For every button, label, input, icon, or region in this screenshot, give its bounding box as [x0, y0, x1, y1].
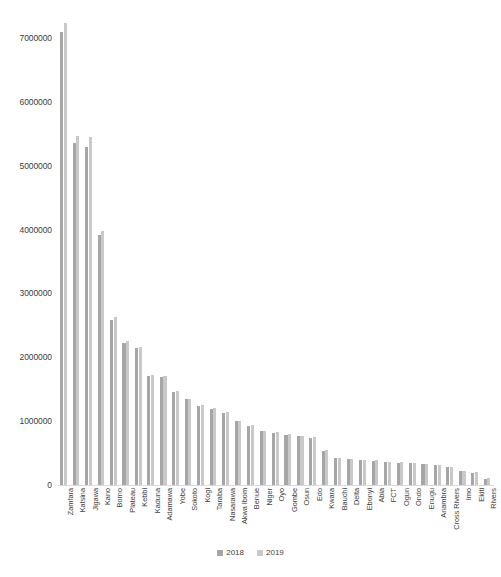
x-tick-label: Adamawa — [166, 488, 174, 521]
bar-group — [135, 0, 147, 485]
bar-2019 — [375, 460, 378, 485]
x-tick-label: Katsina — [79, 488, 87, 512]
x-tick-label: Ebonyi — [366, 488, 374, 510]
bar-group — [210, 0, 222, 485]
x-tick-label: Plateau — [129, 488, 137, 513]
x-tick-label: Ekiti — [478, 488, 486, 502]
y-tick-label: 2000000 — [20, 353, 52, 362]
y-tick-label: 3000000 — [20, 289, 52, 298]
bar-2019 — [338, 458, 341, 485]
bar-2019 — [350, 459, 353, 485]
x-tick-label: Kogi — [204, 488, 212, 503]
bar-2019 — [163, 376, 166, 485]
bar-2019 — [126, 341, 129, 485]
bar-chart: 0100000020000003000000400000050000006000… — [0, 0, 501, 577]
bar-2019 — [450, 467, 453, 485]
x-tick-label: Ogun — [403, 488, 411, 506]
bar-2019 — [462, 471, 465, 485]
y-tick-label: 6000000 — [20, 97, 52, 106]
bar-group — [73, 0, 85, 485]
y-tick-label: 1000000 — [20, 417, 52, 426]
x-tick-label: Taraba — [216, 488, 224, 510]
x-tick-label: Borno — [116, 488, 124, 507]
bar-2019 — [238, 421, 241, 485]
bar-2019 — [201, 405, 204, 485]
bar-group — [397, 0, 409, 485]
x-tick-label: Gombe — [291, 488, 299, 512]
y-tick-label: 7000000 — [20, 34, 52, 43]
bar-2019 — [151, 375, 154, 485]
bar-group — [372, 0, 384, 485]
bar-group — [309, 0, 321, 485]
x-tick-label: Kebbi — [141, 488, 149, 507]
bar-2019 — [425, 464, 428, 485]
bar-2019 — [325, 450, 328, 485]
x-tick-label: Anambra — [440, 488, 448, 518]
bar-2019 — [300, 436, 303, 485]
bar-2019 — [64, 23, 67, 485]
bar-2019 — [114, 317, 117, 485]
x-tick-label: Oyo — [278, 488, 286, 501]
bar-group — [471, 0, 483, 485]
bar-group — [260, 0, 272, 485]
x-tick-label: Rivers — [490, 488, 498, 509]
bar-group — [235, 0, 247, 485]
y-axis: 0100000020000003000000400000050000006000… — [0, 0, 58, 577]
bar-2019 — [475, 472, 478, 485]
y-tick-label: 5000000 — [20, 161, 52, 170]
bar-group — [484, 0, 496, 485]
bar-group — [359, 0, 371, 485]
x-tick-label: Zamfara — [67, 488, 75, 515]
bar-2019 — [89, 137, 92, 485]
bar-group — [172, 0, 184, 485]
x-tick-label: Kano — [104, 488, 112, 505]
bar-2019 — [176, 391, 179, 485]
bar-group — [459, 0, 471, 485]
x-tick-label: Benue — [253, 488, 261, 509]
legend-item[interactable]: 2018 — [217, 549, 244, 557]
bar-2019 — [487, 478, 490, 485]
bar-2019 — [288, 434, 291, 485]
bar-2019 — [413, 463, 416, 485]
bar-2019 — [313, 437, 316, 485]
x-tick-label: Delta — [353, 488, 361, 505]
x-tick-label: Cross Rivers — [453, 488, 461, 530]
bar-2019 — [251, 425, 254, 485]
x-tick-label: Imo — [465, 488, 473, 500]
x-tick-label: Yobe — [179, 488, 187, 504]
bar-group — [272, 0, 284, 485]
bar-group — [334, 0, 346, 485]
bar-group — [384, 0, 396, 485]
x-tick-label: Bauchi — [341, 488, 349, 510]
y-tick-label: 0 — [47, 481, 52, 490]
bar-group — [197, 0, 209, 485]
bar-group — [122, 0, 134, 485]
x-tick-label: Akwa Ibom — [241, 488, 249, 524]
bar-2019 — [76, 136, 79, 485]
plot-bars — [58, 0, 494, 485]
bar-group — [98, 0, 110, 485]
bar-group — [85, 0, 97, 485]
legend-item[interactable]: 2019 — [257, 549, 284, 557]
bar-group — [60, 0, 72, 485]
bar-group — [322, 0, 334, 485]
bar-2019 — [276, 432, 279, 485]
bar-group — [446, 0, 458, 485]
x-tick-label: Jigawa — [92, 488, 100, 511]
x-tick-label: Kaduna — [154, 488, 162, 513]
x-tick-label: Ondo — [415, 488, 423, 506]
bar-2019 — [101, 231, 104, 485]
x-tick-label: Osun — [303, 488, 311, 505]
bar-2019 — [263, 431, 266, 485]
bar-group — [222, 0, 234, 485]
x-tick-label: Kwara — [328, 488, 336, 509]
bar-group — [421, 0, 433, 485]
bar-group — [297, 0, 309, 485]
chart-legend: 20182019 — [0, 549, 501, 557]
legend-swatch-icon — [217, 550, 223, 556]
x-tick-label: Niger — [266, 488, 274, 505]
x-tick-label: FCT — [390, 488, 398, 502]
bar-group — [434, 0, 446, 485]
bar-group — [409, 0, 421, 485]
legend-swatch-icon — [257, 550, 263, 556]
